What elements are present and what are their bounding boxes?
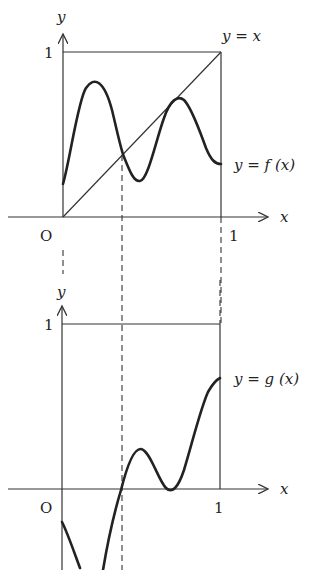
- bottom-y-tick: 1: [44, 316, 54, 334]
- top-origin-label: O: [40, 227, 52, 245]
- top-y-label: y: [56, 8, 66, 26]
- f-curve-label: y = f (x): [233, 156, 295, 174]
- f-curve: [63, 82, 221, 184]
- bottom-graph: y 1 O 1 x y = g (x): [8, 280, 299, 570]
- g-curve-label: y = g (x): [233, 370, 299, 388]
- diagram-canvas: y 1 O 1 x y = x y = f (x) y 1 O 1 x y = …: [0, 0, 313, 570]
- top-x-label: x: [280, 208, 289, 226]
- bottom-y-label: y: [56, 283, 66, 301]
- bottom-x-label: x: [280, 480, 289, 498]
- identity-line: [63, 52, 221, 217]
- top-x-tick: 1: [229, 227, 239, 245]
- top-y-tick: 1: [44, 44, 54, 62]
- g-curve: [62, 378, 220, 570]
- bottom-origin-label: O: [40, 499, 52, 517]
- identity-line-label: y = x: [221, 27, 262, 45]
- top-graph: y 1 O 1 x y = x y = f (x): [8, 8, 295, 570]
- bottom-x-tick: 1: [214, 499, 224, 517]
